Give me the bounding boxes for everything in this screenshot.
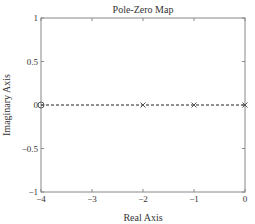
x-ticks: −4−3−2−10 <box>36 18 248 204</box>
x-axis-label: Real Axis <box>123 212 162 223</box>
x-tick-label: −3 <box>87 194 97 204</box>
y-tick-label: 1 <box>34 13 39 23</box>
x-tick-label: −1 <box>189 194 199 204</box>
chart-title: Pole-Zero Map <box>113 4 174 15</box>
y-axis-label: Imaginary Axis <box>1 74 12 136</box>
y-tick-label: 0.5 <box>27 57 39 67</box>
x-tick-label: −2 <box>138 194 148 204</box>
y-tick-label: −1 <box>28 187 38 197</box>
x-tick-label: 0 <box>243 194 248 204</box>
pole-zero-chart: Pole-Zero Map Real Axis Imaginary Axis −… <box>0 0 255 224</box>
y-tick-label: −0.5 <box>22 144 39 154</box>
